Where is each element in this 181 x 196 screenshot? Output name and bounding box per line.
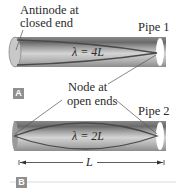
pipe-2-label: Pipe 2 [138, 104, 170, 118]
antinode-label-line1: Antinode at [20, 3, 79, 17]
node-label-line2: open ends [67, 94, 117, 108]
length-dimension-label: L [86, 155, 93, 170]
pipe-1-label: Pipe 1 [138, 20, 170, 34]
wavelength-pipe-1: λ = 4L [72, 45, 104, 60]
panel-a-label: A [13, 88, 24, 99]
antinode-label-line2: closed end [20, 16, 73, 30]
panel-b-label: B [16, 177, 27, 188]
node-label-line1: Node at [68, 80, 107, 94]
wavelength-pipe-2: λ = 2L [72, 129, 104, 144]
